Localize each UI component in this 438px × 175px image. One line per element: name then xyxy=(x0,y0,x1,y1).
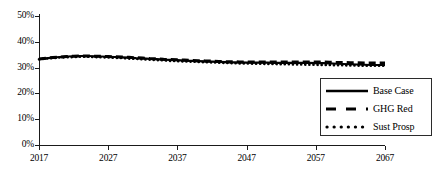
x-axis-tick xyxy=(247,146,248,150)
y-axis-line xyxy=(39,14,40,146)
legend-item-sust-prosp[interactable]: Sust Prosp xyxy=(321,117,433,136)
y-axis-tick xyxy=(35,16,39,17)
legend-item-ghg-red[interactable]: GHG Red xyxy=(321,99,433,118)
y-axis-tick xyxy=(35,119,39,120)
y-axis-tick-label: 10% xyxy=(0,114,34,124)
series-line-ghg-red xyxy=(39,56,385,63)
x-axis-tick-label: 2067 xyxy=(363,153,407,163)
series-line-sust-prosp xyxy=(39,57,385,66)
x-axis-tick-label: 2017 xyxy=(17,153,61,163)
y-axis-tick-label: 40% xyxy=(0,37,34,47)
legend-swatch-solid-icon xyxy=(325,85,369,97)
x-axis-tick xyxy=(108,146,109,150)
y-axis-tick xyxy=(35,68,39,69)
x-axis-tick-label: 2037 xyxy=(155,153,199,163)
x-axis-tick-label: 2027 xyxy=(86,153,130,163)
legend-label-base-case: Base Case xyxy=(373,86,413,96)
y-axis-tick-label: 30% xyxy=(0,63,34,73)
y-axis-tick xyxy=(35,93,39,94)
x-axis-tick xyxy=(177,146,178,150)
chart-screenshot: 50%40%30%20%10%0% 2017202720372047205720… xyxy=(0,0,438,175)
series-line-base-case xyxy=(39,56,385,65)
x-axis-tick xyxy=(316,146,317,150)
x-axis-tick-label: 2047 xyxy=(225,153,269,163)
x-axis-tick xyxy=(39,146,40,150)
x-axis-tick-label: 2057 xyxy=(294,153,338,163)
legend-item-base-case[interactable]: Base Case xyxy=(321,81,433,100)
legend-swatch-dashed-icon xyxy=(325,103,369,115)
x-axis-tick xyxy=(385,146,386,150)
legend-swatch-dotted-icon xyxy=(325,121,369,133)
x-axis-line xyxy=(39,145,385,146)
legend-label-ghg-red: GHG Red xyxy=(373,104,413,114)
legend-label-sust-prosp: Sust Prosp xyxy=(373,122,415,132)
y-axis-tick xyxy=(35,42,39,43)
y-axis-tick-label: 0% xyxy=(0,140,34,150)
chart-legend: Base Case GHG Red Sust Prosp xyxy=(320,78,432,136)
y-axis-tick-label: 20% xyxy=(0,88,34,98)
y-axis-tick-label: 50% xyxy=(0,11,34,21)
